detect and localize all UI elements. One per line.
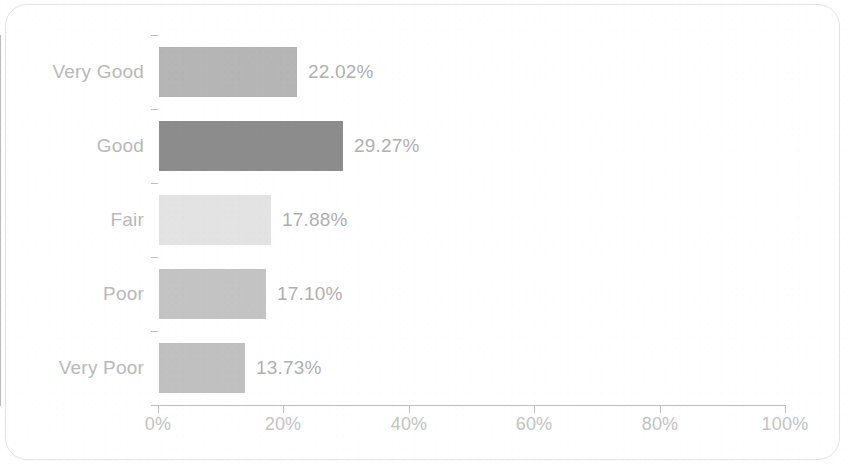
bar-row: Good29.27% xyxy=(0,109,848,183)
value-axis-tick xyxy=(785,405,786,413)
bar-value-label-very-poor: 13.73% xyxy=(256,331,322,405)
category-label-very-poor: Very Poor xyxy=(0,331,144,405)
value-axis-tick-label-20: 20% xyxy=(243,414,323,435)
category-label-fair: Fair xyxy=(0,183,144,257)
value-axis-tick-label-60: 60% xyxy=(494,414,574,435)
chart-figure: Very Good22.02%Good29.27%Fair17.88%Poor1… xyxy=(0,0,848,468)
bar-row: Poor17.10% xyxy=(0,257,848,331)
category-axis-tick xyxy=(151,405,158,406)
bar-value-label-very-good: 22.02% xyxy=(308,35,374,109)
bar-row: Very Good22.02% xyxy=(0,35,848,109)
value-axis-tick-label-100: 100% xyxy=(745,414,825,435)
category-label-very-good: Very Good xyxy=(0,35,144,109)
value-axis-tick-label-40: 40% xyxy=(369,414,449,435)
bar-poor[interactable] xyxy=(159,269,266,319)
bar-row: Fair17.88% xyxy=(0,183,848,257)
bar-value-label-poor: 17.10% xyxy=(277,257,343,331)
value-axis-tick xyxy=(534,405,535,413)
bar-row: Very Poor13.73% xyxy=(0,331,848,405)
value-axis-tick xyxy=(158,405,159,413)
bar-very-poor[interactable] xyxy=(159,343,245,393)
bar-very-good[interactable] xyxy=(159,47,297,97)
bar-good[interactable] xyxy=(159,121,343,171)
value-axis-tick xyxy=(660,405,661,413)
bar-value-label-fair: 17.88% xyxy=(282,183,348,257)
value-axis-tick-label-80: 80% xyxy=(620,414,700,435)
category-label-poor: Poor xyxy=(0,257,144,331)
value-axis-tick xyxy=(283,405,284,413)
value-axis-tick xyxy=(409,405,410,413)
bar-fair[interactable] xyxy=(159,195,271,245)
bar-value-label-good: 29.27% xyxy=(354,109,420,183)
value-axis-tick-label-0: 0% xyxy=(118,414,198,435)
category-label-good: Good xyxy=(0,109,144,183)
value-axis-line xyxy=(158,405,786,406)
